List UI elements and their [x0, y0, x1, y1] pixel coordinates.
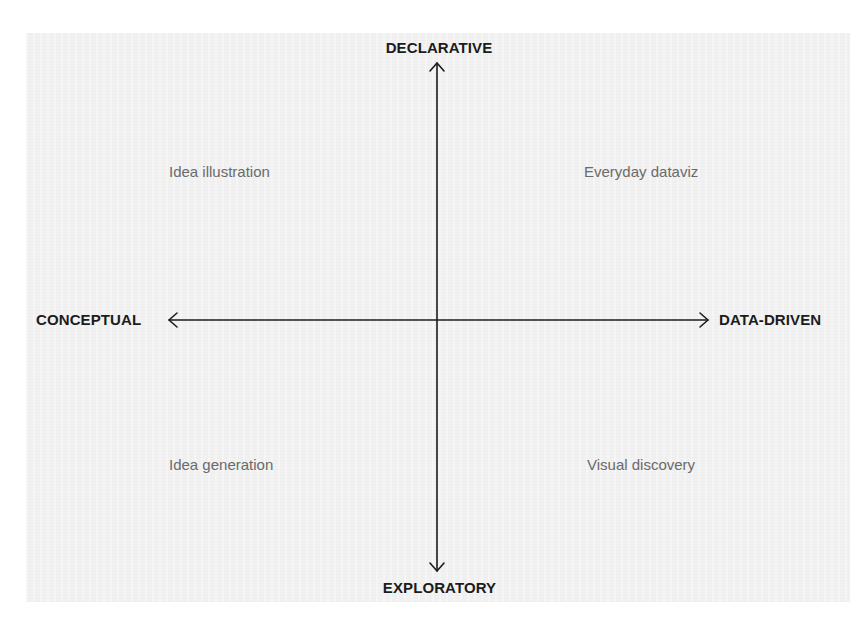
axis-label-exploratory: EXPLORATORY	[374, 579, 505, 597]
quadrant-label-everyday-dataviz: Everyday dataviz	[584, 163, 698, 181]
axis-label-conceptual: CONCEPTUAL	[36, 311, 141, 329]
horizontal-axis	[169, 313, 708, 327]
quadrant-label-idea-illustration: Idea illustration	[169, 163, 270, 181]
vertical-axis	[430, 63, 444, 571]
axis-label-declarative: DECLARATIVE	[378, 39, 500, 57]
quadrant-label-idea-generation: Idea generation	[169, 456, 273, 474]
axis-label-data-driven: DATA-DRIVEN	[719, 311, 821, 329]
quadrant-label-visual-discovery: Visual discovery	[587, 456, 695, 474]
